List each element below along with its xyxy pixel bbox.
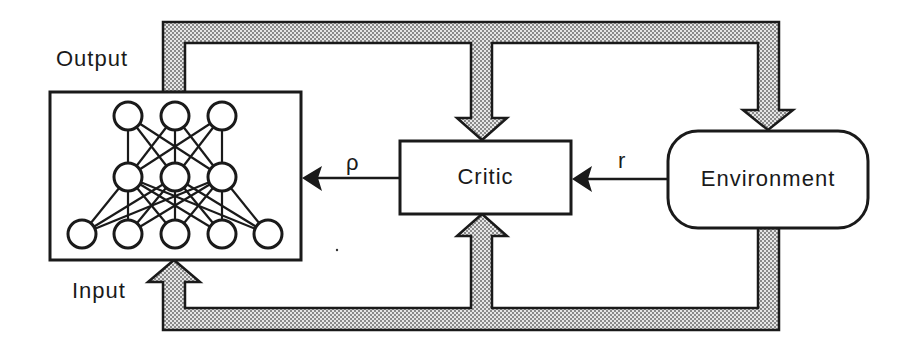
output-neuron: [114, 102, 142, 130]
input-neuron: [208, 220, 236, 248]
environment-label: Environment: [668, 166, 868, 192]
output-neuron: [208, 102, 236, 130]
scan-speck: [336, 249, 338, 251]
r-label: r: [618, 148, 626, 174]
input-neuron: [114, 220, 142, 248]
hidden-neuron: [208, 163, 236, 191]
input-neuron: [68, 220, 96, 248]
input-label: Input: [72, 278, 126, 304]
input-neuron: [254, 220, 282, 248]
input-neuron: [161, 220, 189, 248]
output-label: Output: [56, 46, 128, 72]
hidden-neuron: [114, 163, 142, 191]
rho-label: ρ: [346, 150, 360, 176]
hidden-neuron: [161, 163, 189, 191]
critic-label: Critic: [400, 164, 571, 190]
output-neuron: [161, 102, 189, 130]
